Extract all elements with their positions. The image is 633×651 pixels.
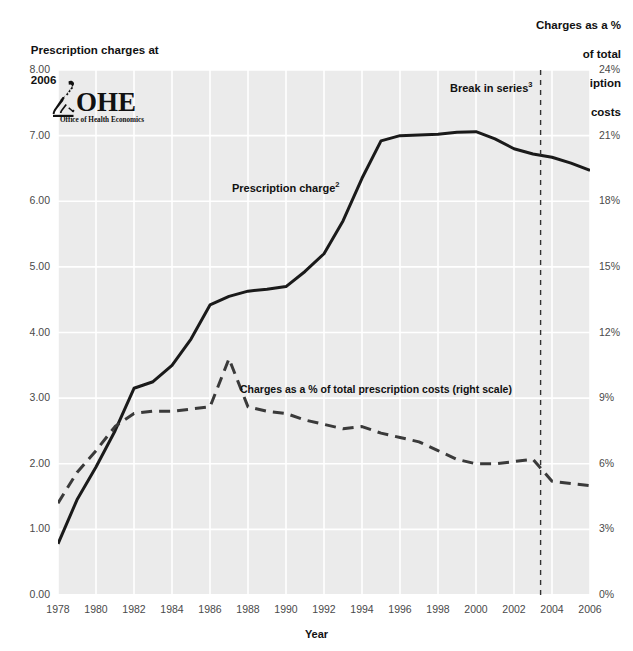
ohe-tagline: Office of Health Economics <box>60 116 144 124</box>
plot-svg <box>58 70 590 595</box>
x-axis-tick-2006: 2006 <box>568 603 612 615</box>
annotation-prescription-charge-text: Prescription charge <box>232 182 335 194</box>
right-axis-title-line4: costs <box>591 106 621 118</box>
gridlines <box>58 70 590 595</box>
left-axis-tick-2.00: 2.00 <box>30 457 50 469</box>
left-axis-tick-7.00: 7.00 <box>30 129 50 141</box>
left-axis-tick-1.00: 1.00 <box>30 522 50 534</box>
right-axis-tick-15%: 15% <box>599 260 620 272</box>
ohe-wordmark: OHE <box>76 87 136 117</box>
ohe-logo-svg: OHE Office of Health Economics <box>52 78 152 126</box>
x-axis-title: Year <box>0 628 633 640</box>
right-axis-tick-21%: 21% <box>599 129 620 141</box>
annotation-charges-percent: Charges as a % of total prescription cos… <box>240 383 512 395</box>
left-axis-tick-0.00: 0.00 <box>30 588 50 600</box>
left-axis-tick-5.00: 5.00 <box>30 260 50 272</box>
right-axis-title-line1: Charges as a % <box>536 19 621 31</box>
annotation-prescription-charge: Prescription charge2 <box>232 182 340 194</box>
left-axis-tick-8.00: 8.00 <box>30 63 50 75</box>
right-axis-title-line2: of total <box>583 48 621 60</box>
right-axis-tick-9%: 9% <box>599 391 614 403</box>
left-axis-tick-6.00: 6.00 <box>30 194 50 206</box>
right-axis-tick-18%: 18% <box>599 194 620 206</box>
plot-area <box>58 70 590 595</box>
right-axis-tick-6%: 6% <box>599 457 614 469</box>
annotation-prescription-charge-footnote: 2 <box>335 180 339 189</box>
chart-canvas: Prescription charges at 2006 prices1 (£)… <box>0 0 633 651</box>
right-axis-tick-12%: 12% <box>599 326 620 338</box>
left-axis-tick-4.00: 4.00 <box>30 326 50 338</box>
annotation-break-in-series-footnote: 3 <box>528 80 532 89</box>
left-axis-title-line1: Prescription charges at <box>31 44 159 56</box>
left-axis-tick-3.00: 3.00 <box>30 391 50 403</box>
ohe-logo: OHE Office of Health Economics <box>52 78 152 126</box>
microscope-icon <box>53 81 75 117</box>
right-axis-tick-3%: 3% <box>599 522 614 534</box>
annotation-break-in-series-text: Break in series <box>450 82 528 94</box>
annotation-break-in-series: Break in series3 <box>450 82 532 94</box>
right-axis-tick-24%: 24% <box>599 63 620 75</box>
right-axis-tick-0%: 0% <box>599 588 614 600</box>
